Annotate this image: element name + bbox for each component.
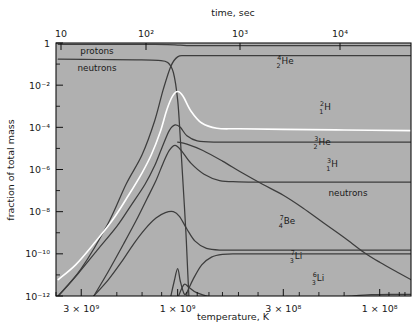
- x2-tick-label: 10²: [138, 28, 154, 39]
- annotation-protons: protons: [80, 46, 114, 56]
- x-tick-label: 3 × 10⁹: [63, 303, 99, 314]
- y-tick-label: 10⁻¹²: [25, 291, 50, 302]
- y-tick-label: 1: [44, 38, 50, 49]
- x2-tick-label: 10: [55, 28, 67, 39]
- left-axis-title: fraction of total mass: [5, 119, 16, 220]
- x-tick-label: 3 × 10⁸: [265, 303, 301, 314]
- x-tick-label: 1 × 10⁸: [362, 303, 398, 314]
- y-tick-label: 10⁻²: [29, 80, 50, 91]
- y-tick-label: 10⁻⁴: [29, 122, 50, 133]
- y-tick-label: 10⁻¹⁰: [25, 248, 50, 259]
- bottom-axis-title: temperature, K: [197, 311, 270, 322]
- x-tick-label: 1 × 10⁹: [160, 303, 196, 314]
- plot-area-background: [56, 43, 411, 296]
- x2-tick-label: 10³: [232, 28, 248, 39]
- top-axis-title: time, sec: [211, 7, 255, 18]
- y-tick-label: 10⁻⁸: [29, 206, 50, 217]
- annotation-neutrons: neutrons: [78, 63, 117, 73]
- chart-svg: time, sec temperature, K fraction of tot…: [0, 0, 419, 325]
- annotation-neutrons: neutrons: [329, 188, 368, 198]
- y-tick-label: 10⁻⁶: [29, 164, 50, 175]
- nucleosynthesis-abundance-chart: time, sec temperature, K fraction of tot…: [0, 0, 419, 325]
- x2-tick-label: 10⁴: [332, 28, 348, 39]
